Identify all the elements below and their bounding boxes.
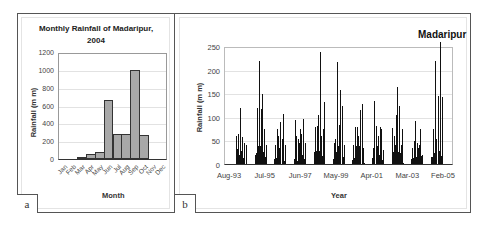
rain-peak — [305, 143, 306, 164]
rain-peak — [242, 137, 243, 164]
y-tick-label: 50 — [194, 137, 220, 146]
y-tick-label: 0 — [28, 156, 54, 163]
chart-b-title: Madaripur — [418, 29, 466, 40]
rain-peak — [285, 145, 286, 164]
x-tick-label: Aug-93 — [217, 171, 241, 180]
chart-b-y-label: Rainfall (m m) — [195, 78, 204, 138]
rain-peak — [246, 145, 247, 164]
chart-a-y-label: Rainfall (m m) — [29, 83, 38, 143]
rain-peak — [344, 145, 345, 164]
x-tick-label: Jun-97 — [289, 171, 312, 180]
y-tick-label: 250 — [194, 43, 220, 52]
gridline — [59, 89, 166, 90]
chart-a-plot-area — [58, 53, 167, 160]
rain-peak — [442, 97, 443, 164]
chart-b-plot-area — [224, 47, 453, 165]
bar-oct — [139, 135, 149, 159]
rain-peak — [363, 148, 364, 164]
x-tick-label: Apr-01 — [360, 171, 383, 180]
y-tick-label: 1000 — [28, 67, 54, 74]
x-tick-label: Feb-05 — [431, 171, 455, 180]
y-tick-label: 0 — [194, 161, 220, 170]
chart-a-title: Monthly Rainfall of Madaripur, 2004 — [17, 23, 175, 47]
chart-a-title-line1: Monthly Rainfall of Madaripur, — [17, 23, 175, 35]
rain-peak — [324, 102, 325, 164]
panel-b-label: b — [175, 194, 196, 213]
x-tick-label: Jul-95 — [254, 171, 274, 180]
panel-a-label: a — [17, 194, 38, 213]
rain-peak — [266, 145, 267, 164]
rain-peak — [238, 134, 239, 164]
rain-peak — [240, 108, 241, 164]
y-tick-label: 200 — [194, 67, 220, 76]
panel-b: Madaripur 050100150200250 Rainfall (m m)… — [175, 13, 471, 213]
panel-a: Monthly Rainfall of Madaripur, 2004 0200… — [17, 13, 175, 213]
rain-peak — [244, 143, 245, 164]
rain-peak — [383, 150, 384, 164]
x-tick-label: May-99 — [323, 171, 348, 180]
chart-b-x-label: Year — [331, 191, 347, 200]
chart-a-title-line2: 2004 — [17, 35, 175, 47]
chart-a-x-label: Month — [102, 191, 125, 200]
x-tick-label: Mar-03 — [395, 171, 419, 180]
rain-peak — [402, 129, 403, 164]
rain-peak — [422, 155, 423, 164]
y-tick-label: 1200 — [28, 49, 54, 56]
gridline — [59, 71, 166, 72]
rain-peak — [236, 136, 237, 164]
